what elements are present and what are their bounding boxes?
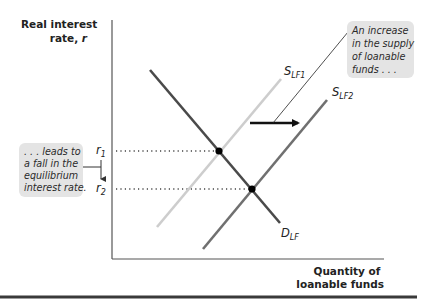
svg-text:. . . leads to a fall in: . . . leads to a fall in the equilibrium… [24,146,87,193]
supply-1-label: SLF1 [284,64,305,80]
loanable-funds-chart: Real interest rate, r Quantity of loanab… [0,0,425,303]
y-axis-title: Real interest rate, r [21,18,101,44]
r2-label: r2 [96,181,106,197]
x-axis-title: Quantity of loanable funds [296,265,384,290]
demand-label: DLF [281,226,299,242]
r1-label: r1 [96,143,106,159]
equilibrium-point-1 [215,147,222,154]
rate-fall-callout: . . . leads to a fall in the equilibrium… [19,143,87,197]
equilibrium-point-2 [248,185,255,192]
supply-increase-callout: An increase in the supply of loanable fu… [347,21,417,78]
demand-curve [150,70,280,223]
supply-2-label: SLF2 [332,85,353,101]
